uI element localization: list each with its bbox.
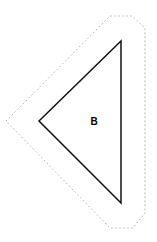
diagram-canvas: B	[0, 0, 157, 242]
shape-label: B	[90, 116, 97, 127]
triangle-shape[interactable]	[39, 41, 121, 203]
